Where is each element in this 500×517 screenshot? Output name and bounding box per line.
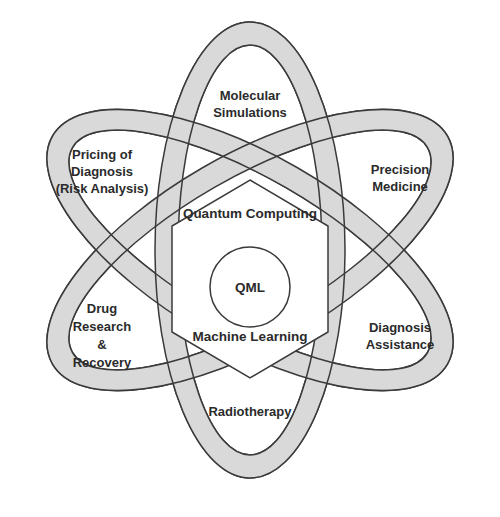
- lobe-label-line: Precision: [371, 162, 430, 177]
- atom-diagram: Quantum Computing QML Machine Learning M…: [0, 0, 500, 517]
- lobe-label-line: Diagnosis: [71, 164, 133, 179]
- lobe-label-line: Assistance: [366, 337, 435, 352]
- hexagon-bottom-label: Machine Learning: [193, 329, 308, 344]
- lobe-label-line: Diagnosis: [369, 320, 431, 335]
- lobe-bottom: Radiotherapy: [208, 404, 292, 419]
- lobe-label-line: Medicine: [372, 179, 428, 194]
- lobe-label-line: Drug: [87, 301, 117, 316]
- lobe-label-line: Radiotherapy: [208, 404, 292, 419]
- hexagon-top-label: Quantum Computing: [183, 206, 317, 221]
- lobe-label-line: Research: [73, 319, 132, 334]
- lobe-label-line: (Risk Analysis): [56, 181, 149, 196]
- lobe-label-line: Simulations: [213, 105, 287, 120]
- lobe-label-line: Pricing of: [72, 147, 133, 162]
- lobe-label-line: &: [97, 337, 106, 352]
- lobe-label-line: Molecular: [220, 88, 281, 103]
- core-label: QML: [235, 280, 265, 295]
- lobe-label-line: Recovery: [73, 355, 132, 370]
